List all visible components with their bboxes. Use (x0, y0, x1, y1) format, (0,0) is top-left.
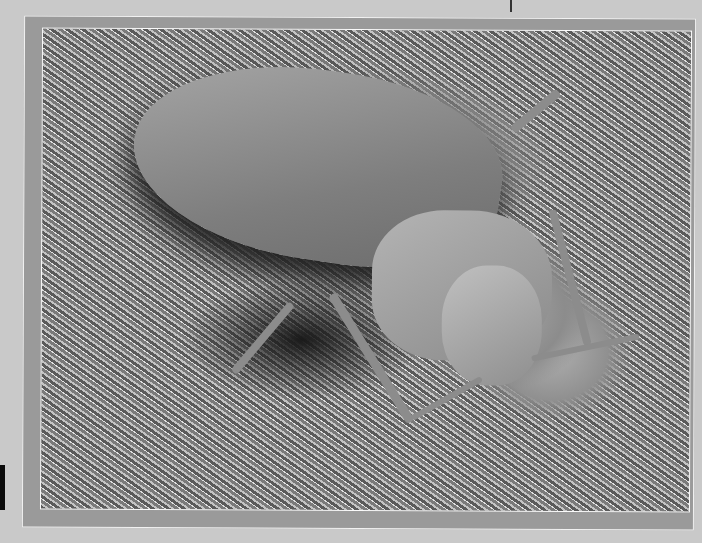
photo-frame (22, 16, 696, 531)
insect-leg (510, 88, 562, 133)
page-edge-mark (0, 465, 5, 510)
insect-leg (548, 209, 591, 346)
sem-micrograph (40, 28, 692, 513)
page-tick-mark (510, 0, 512, 12)
insect-antenna (411, 376, 483, 421)
insect-leg (231, 301, 295, 375)
insect-head (442, 265, 543, 385)
